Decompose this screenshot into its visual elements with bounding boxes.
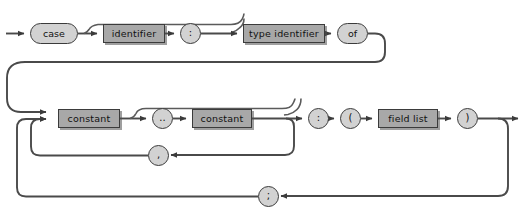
nonterminal-constant-1[interactable]: constant bbox=[58, 109, 120, 128]
terminal-semicolon-label: ; bbox=[267, 191, 270, 201]
terminal-of[interactable]: of bbox=[337, 23, 368, 44]
nonterminal-field-list-label: field list bbox=[388, 113, 427, 124]
terminal-left-paren-label: ( bbox=[349, 113, 353, 123]
terminal-of-label: of bbox=[348, 28, 357, 39]
terminal-range-dots[interactable]: .. bbox=[152, 108, 173, 129]
terminal-case[interactable]: case bbox=[30, 23, 78, 44]
terminal-right-paren-label: ) bbox=[466, 113, 470, 123]
rail-semicolon-loop-left bbox=[17, 119, 258, 197]
terminal-left-paren[interactable]: ( bbox=[340, 108, 361, 129]
terminal-comma[interactable]: , bbox=[148, 145, 169, 166]
terminal-colon-2-label: : bbox=[317, 113, 320, 123]
terminal-colon-2[interactable]: : bbox=[308, 108, 329, 129]
terminal-comma-label: , bbox=[157, 150, 160, 160]
nonterminal-constant-2[interactable]: constant bbox=[192, 109, 252, 128]
nonterminal-type-identifier-label: type identifier bbox=[249, 28, 319, 39]
nonterminal-identifier[interactable]: identifier bbox=[103, 24, 165, 43]
terminal-semicolon[interactable]: ; bbox=[258, 186, 279, 207]
terminal-case-label: case bbox=[43, 28, 65, 39]
terminal-range-dots-label: .. bbox=[159, 113, 165, 123]
nonterminal-type-identifier[interactable]: type identifier bbox=[243, 24, 325, 43]
terminal-colon-1[interactable]: : bbox=[180, 23, 201, 44]
rail-wrap-to-row2 bbox=[7, 34, 385, 113]
railroad-diagram: case identifier : type identifier of con… bbox=[0, 0, 532, 217]
nonterminal-constant-1-label: constant bbox=[68, 113, 111, 124]
nonterminal-identifier-label: identifier bbox=[112, 28, 157, 39]
nonterminal-constant-2-label: constant bbox=[201, 113, 244, 124]
nonterminal-field-list[interactable]: field list bbox=[378, 109, 438, 128]
terminal-right-paren[interactable]: ) bbox=[457, 108, 478, 129]
terminal-colon-1-label: : bbox=[189, 28, 192, 38]
rail-semicolon-loop-right bbox=[281, 119, 508, 197]
